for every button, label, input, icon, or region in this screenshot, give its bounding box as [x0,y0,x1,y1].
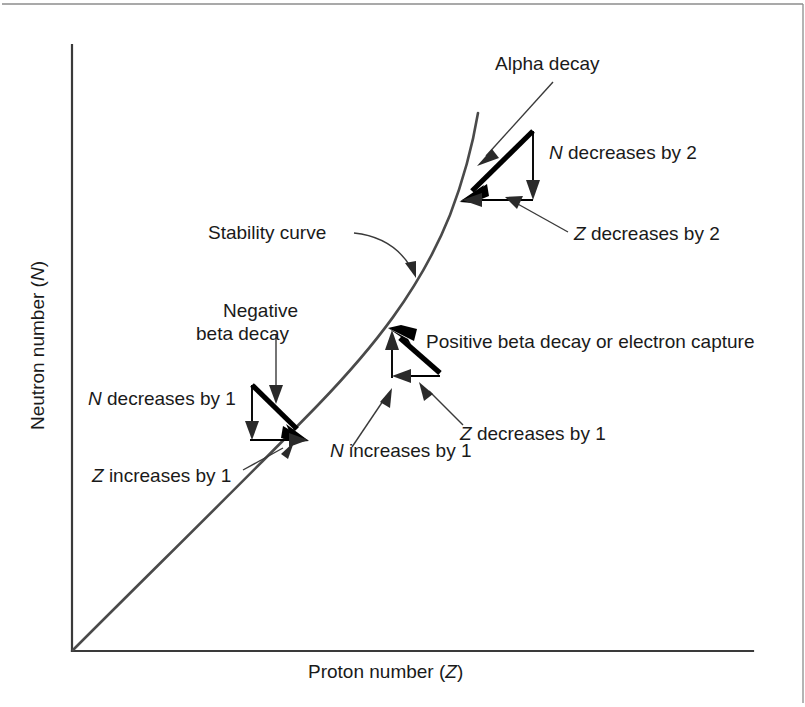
nuclide-stability-diagram: Neutron number (N) Proton number (Z) Sta… [0,0,805,707]
beta-plus-n-label-leader-group [352,388,392,447]
y-axis-label: Neutron number (N) [27,261,48,430]
beta-plus-n-label-leader-arrowhead [380,388,392,408]
diagram-canvas: Neutron number (N) Proton number (Z) Sta… [0,0,805,707]
beta-minus-z-label-leader-arrowhead [281,442,294,459]
beta-plus-n-change-label: N increases by 1 [330,440,472,461]
beta-plus-z-label-leader-group [419,382,463,425]
alpha-resultant-arrow-shaft [472,131,533,191]
stability-curve-label: Stability curve [208,222,326,243]
beta-minus-n-component-arrowhead [245,421,259,440]
alpha-n-component-arrowhead [526,180,540,200]
x-axis-label: Proton number (Z) [308,661,463,682]
alpha-decay-leader-group [477,82,553,166]
beta-minus-z-label-leader-group [243,442,294,470]
negative-beta-leader-group [269,334,283,404]
negative-beta-label-line2: beta decay [196,323,289,344]
alpha-z-label-leader-group [505,196,568,232]
beta-minus-z-change-label: Z increases by 1 [91,465,231,486]
beta-plus-z-label-leader-arrowhead [419,382,433,401]
alpha-z-change-label: Z decreases by 2 [573,223,720,244]
alpha-n-change-label: N decreases by 2 [549,142,697,163]
positive-beta-label: Positive beta decay or electron capture [426,331,754,352]
alpha-z-label-leader-arrowhead [505,196,523,209]
alpha-z-label-leader-line [516,203,568,232]
stability-curve-leader-line [354,233,410,266]
beta-minus-n-change-label: N decreases by 1 [88,388,236,409]
beta-plus-z-component-arrowhead [392,369,411,383]
beta-plus-z-label-leader-line [429,391,463,425]
beta-minus-z-label-leader-line [243,448,283,470]
alpha-decay-leader-arrowhead [477,149,499,166]
stability-curve-leader-group [354,233,416,278]
beta-plus-z-change-label: Z decreases by 1 [459,423,606,444]
alpha-decay-label: Alpha decay [495,53,600,74]
stability-curve-leader-arrowhead [405,261,416,278]
negative-beta-label-line1: Negative [223,300,298,321]
